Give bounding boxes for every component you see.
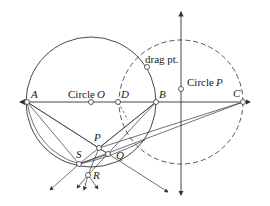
label-p: P [93,131,101,143]
line-a-q [27,102,108,154]
label-b: B [159,88,166,100]
point-circle-p[interactable] [179,87,184,92]
point-b[interactable] [154,100,159,105]
label-d: D [120,88,129,100]
point-d[interactable] [116,100,121,105]
point-q-node[interactable] [106,152,111,157]
point-p[interactable] [97,146,102,151]
ray-s [50,164,79,190]
label-q: Q [116,149,124,161]
segment-s-q [79,154,108,164]
line-c-p [99,102,243,148]
label-circle-p-prefix: Circle [187,76,214,88]
geometry-diagram: A Circle O D B drag pt. Circle P C P Q S… [0,0,270,206]
point-drag[interactable] [145,65,150,70]
point-s[interactable] [77,162,82,167]
label-circle-p-name: P [215,76,223,88]
label-r: R [92,169,100,181]
label-c: C [233,87,241,99]
label-s: S [76,148,82,160]
label-drag-point: drag pt. [145,53,179,65]
label-a: A [30,88,38,100]
point-o[interactable] [89,100,94,105]
point-r[interactable] [86,173,91,178]
line-c-s [79,102,243,164]
point-c[interactable] [241,100,246,105]
label-circle-o-name: O [97,88,105,100]
label-circle-o-prefix: Circle [68,88,95,100]
point-a[interactable] [25,100,30,105]
